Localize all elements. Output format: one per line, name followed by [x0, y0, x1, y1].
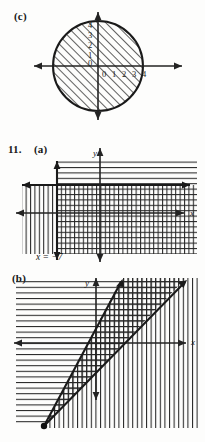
lines-intersection-point: [41, 423, 47, 429]
page-canvas: (c): [0, 0, 205, 442]
y-tick-0: 0: [88, 58, 92, 68]
x-tick-4: 4: [142, 69, 147, 79]
figure-b-y-axis-label: y: [85, 278, 89, 288]
figure-c-svg: 4 3 2 1 0 0 1 2 3 4: [10, 4, 205, 124]
figure-a: [8, 140, 204, 265]
figure-b: [8, 270, 204, 440]
figure-c: 4 3 2 1 0 0 1 2 3 4: [10, 4, 205, 124]
x-tick-0: 0: [102, 69, 106, 79]
figure-a-svg: [8, 140, 204, 265]
x-tick-2: 2: [122, 69, 126, 79]
region-horizontal-shading: [57, 161, 197, 185]
figure-a-x-axis-label: x: [190, 208, 194, 218]
figure-b-svg: [8, 270, 204, 440]
region-crosshatch-overlap: [57, 185, 197, 254]
x-tick-3: 3: [132, 69, 136, 79]
region-vertical-shading: [22, 185, 57, 254]
y-tick-3: 3: [88, 30, 92, 40]
boundary-equation-label: x = −7: [36, 252, 63, 262]
figure-a-y-axis-label: y: [93, 148, 97, 158]
y-tick-2: 2: [88, 40, 92, 50]
figure-b-x-axis-label: x: [191, 337, 195, 347]
x-tick-1: 1: [112, 69, 116, 79]
